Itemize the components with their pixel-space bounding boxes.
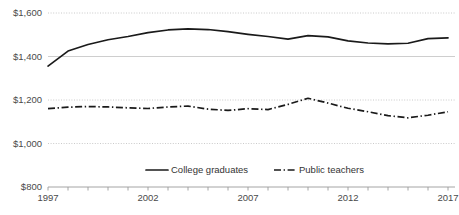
series-line: [48, 98, 448, 118]
x-axis-tick-label: 2007: [237, 192, 258, 203]
data-series: [48, 29, 448, 118]
chart-legend: College graduatesPublic teachers: [146, 164, 364, 175]
y-axis-tick-labels: $1,600$1,400$1,200$1,000$800: [13, 7, 42, 192]
x-axis-tick-label: 2002: [137, 192, 158, 203]
x-axis-tick-label: 2012: [337, 192, 358, 203]
y-axis-tick-label: $1,400: [13, 51, 42, 62]
gridlines: [48, 13, 455, 144]
y-axis-tick-label: $1,200: [13, 94, 42, 105]
x-axis-tick-labels: 19972002200720122017: [37, 192, 458, 203]
legend-label: Public teachers: [299, 164, 364, 175]
y-axis-tick-label: $1,600: [13, 7, 42, 18]
line-chart: $1,600$1,400$1,200$1,000$800 19972002200…: [0, 0, 459, 215]
x-axis-tick-label: 1997: [37, 192, 58, 203]
series-line: [48, 29, 448, 66]
y-axis-tick-label: $800: [21, 181, 42, 192]
x-axis-tick-label: 2017: [437, 192, 458, 203]
chart-container: $1,600$1,400$1,200$1,000$800 19972002200…: [0, 0, 459, 215]
y-axis-tick-label: $1,000: [13, 138, 42, 149]
legend-label: College graduates: [171, 164, 248, 175]
x-axis: [48, 187, 455, 191]
